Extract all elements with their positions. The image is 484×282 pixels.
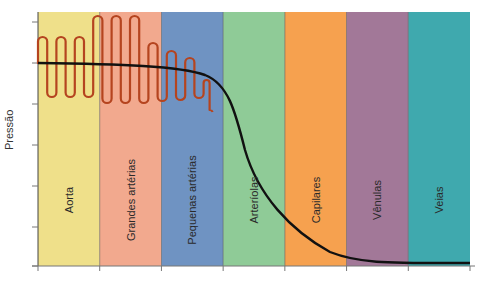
band-label-6: Veias	[433, 186, 445, 213]
band-3	[223, 12, 285, 266]
band-label-1: Grandes artérias	[125, 159, 137, 241]
diagram-canvas: AortaGrandes artériasPequenas artériasAr…	[0, 0, 484, 282]
band-label-0: Aorta	[63, 186, 75, 213]
band-5	[347, 12, 409, 266]
band-6	[408, 12, 470, 266]
band-label-4: Capilares	[310, 176, 322, 223]
y-axis-label: Pressão	[3, 110, 15, 150]
pressure-diagram: AortaGrandes artériasPequenas artériasAr…	[0, 0, 484, 282]
band-label-3: Arteríolas	[248, 176, 260, 224]
band-label-2: Pequenas artérias	[186, 155, 198, 245]
band-label-5: Vênulas	[371, 180, 383, 220]
